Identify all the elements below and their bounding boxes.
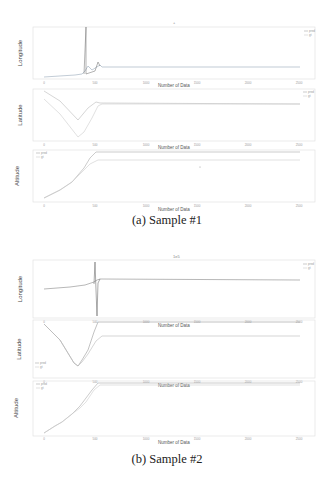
svg-text:2000: 2000 <box>245 143 252 147</box>
svg-text:gt: gt <box>308 94 311 98</box>
x-axis-label: Number of Data <box>158 383 190 388</box>
x-axis-label: Number of Data <box>158 207 190 212</box>
svg-text:gt: gt <box>41 155 44 159</box>
svg-text:500: 500 <box>92 320 97 324</box>
svg-text:500: 500 <box>92 380 97 384</box>
altitude-plot: Altitude pred gt 05001000150020002500 Nu… <box>14 150 315 212</box>
svg-text:gt: gt <box>40 365 43 369</box>
latitude-plot: Latitude pred gt 05001000150020002500 Nu… <box>17 89 315 150</box>
top-marker: 1e5 <box>173 254 180 259</box>
caption-sample-2: (b) Sample #2 <box>0 452 334 467</box>
svg-text:1000: 1000 <box>143 380 150 384</box>
caption-sample-1: (a) Sample #1 <box>0 213 334 228</box>
svg-text:500: 500 <box>92 437 97 441</box>
svg-text:0: 0 <box>43 320 45 324</box>
svg-text:500: 500 <box>92 81 97 85</box>
svg-text:0: 0 <box>43 437 45 441</box>
svg-text:2000: 2000 <box>245 380 252 384</box>
svg-text:1500: 1500 <box>194 380 201 384</box>
longitude-plot: Longitude pred gt 05001000150020002500 N… <box>17 27 315 88</box>
svg-text:500: 500 <box>92 143 97 147</box>
svg-text:2500: 2500 <box>296 437 303 441</box>
top-marker: + <box>173 20 176 25</box>
legend: pred gt <box>303 262 314 270</box>
svg-text:2000: 2000 <box>245 437 252 441</box>
figure-sample-2: 1e5 Longitude pred gt 050010001500200025… <box>0 250 334 450</box>
svg-text:2500: 2500 <box>296 380 303 384</box>
svg-text:2500: 2500 <box>296 81 303 85</box>
y-axis-label: Latitude <box>17 104 23 126</box>
svg-text:gt: gt <box>308 266 311 270</box>
svg-text:2500: 2500 <box>296 204 303 208</box>
x-axis-label: Number of Data <box>158 83 190 88</box>
svg-text:1500: 1500 <box>194 143 201 147</box>
svg-text:2000: 2000 <box>245 81 252 85</box>
svg-text:1500: 1500 <box>194 437 201 441</box>
sample-2-plots: 1e5 Longitude pred gt 050010001500200025… <box>0 250 334 450</box>
legend: pred gt <box>304 29 315 37</box>
y-axis-label: Altitude <box>14 165 20 186</box>
svg-text:1000: 1000 <box>143 437 150 441</box>
y-axis-label: Altitude <box>13 397 19 418</box>
svg-text:0: 0 <box>43 143 45 147</box>
altitude-plot: Altitude pred gt 05001000150020002500 Nu… <box>13 381 315 445</box>
latitude-plot: Latitude pred gt 05001000150020002500 Nu… <box>16 320 315 388</box>
svg-text:gt: gt <box>309 33 312 37</box>
legend: pred gt <box>36 382 47 390</box>
svg-text:1000: 1000 <box>143 204 150 208</box>
svg-text:0: 0 <box>43 81 45 85</box>
sample-1-plots: + Longitude pred gt 05001000150020002500… <box>0 0 334 230</box>
x-axis-label: Number of Data <box>158 323 190 328</box>
x-axis-label: Number of Data <box>158 145 190 150</box>
legend: pred gt <box>35 361 46 369</box>
legend: pred gt <box>303 90 314 98</box>
legend: pred gt <box>36 151 47 159</box>
svg-text:1500: 1500 <box>194 81 201 85</box>
svg-text:1500: 1500 <box>194 204 201 208</box>
svg-text:gt: gt <box>41 386 44 390</box>
svg-text:2500: 2500 <box>296 143 303 147</box>
svg-text:0: 0 <box>43 204 45 208</box>
longitude-plot: Longitude pred gt 05001000150020002500 N… <box>17 260 315 328</box>
y-axis-label: Longitude <box>17 39 23 66</box>
svg-text:500: 500 <box>92 204 97 208</box>
y-axis-label: Longitude <box>17 275 23 302</box>
x-axis-label: Number of Data <box>158 440 190 445</box>
y-axis-label: Latitude <box>16 338 22 360</box>
svg-text:1000: 1000 <box>143 143 150 147</box>
svg-text:2000: 2000 <box>245 204 252 208</box>
svg-text:1000: 1000 <box>143 81 150 85</box>
figure-sample-1: + Longitude pred gt 05001000150020002500… <box>0 0 334 230</box>
